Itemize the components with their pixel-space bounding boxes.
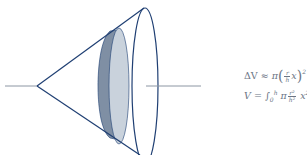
exponent: 2 xyxy=(306,89,307,96)
frac-denominator: h² xyxy=(288,97,296,103)
slice-volume-equation: ΔV ≈ π(rhx)2 Δx xyxy=(244,68,307,84)
pi-symbol: π xyxy=(281,90,287,101)
fraction-r2-over-h2: r²h² xyxy=(288,90,296,103)
integral-lower-bound: 0 xyxy=(270,96,274,103)
integral-upper-bound: h xyxy=(274,89,278,96)
equals-sign: = xyxy=(254,90,262,101)
fraction-r-over-h: rh xyxy=(284,70,290,83)
delta-v: ΔV xyxy=(244,70,258,81)
exponent: 2 xyxy=(302,68,306,75)
left-paren: ( xyxy=(278,68,283,84)
frac-denominator: h xyxy=(284,77,290,83)
approx-sign: ≈ xyxy=(261,70,269,81)
cone-base xyxy=(132,8,158,155)
disk-slice-face xyxy=(109,28,129,144)
integral-volume-equation: V = ∫0h πr²h² x2 dx xyxy=(244,89,307,103)
v-symbol: V xyxy=(244,90,251,101)
